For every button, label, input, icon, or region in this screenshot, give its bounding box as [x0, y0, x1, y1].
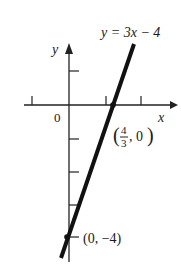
- y-axis-label: y: [50, 42, 59, 57]
- equation-label: y = 3x − 4: [99, 25, 160, 40]
- fraction-numerator: 4: [121, 124, 127, 136]
- x-axis: [24, 96, 178, 109]
- open-paren: (: [113, 124, 120, 147]
- x-intercept-label: ( 4 3 , 0 ): [113, 124, 154, 149]
- label-rest: , 0: [129, 129, 143, 144]
- x-intercept-point: [110, 102, 116, 108]
- y-intercept-label: (0, −4): [83, 231, 122, 247]
- close-paren: ): [147, 124, 154, 147]
- x-axis-label: x: [157, 110, 165, 125]
- y-intercept-point: [64, 234, 70, 240]
- chart-canvas: y = 3x − 4 y x 0 ( 4 3 , 0 ) (0, −4): [0, 0, 181, 266]
- line-series: [61, 44, 134, 258]
- x-axis-arrow-icon: [170, 101, 178, 109]
- fraction-denominator: 3: [121, 137, 127, 149]
- origin-label: 0: [54, 110, 61, 125]
- y-axis-arrow-icon: [65, 43, 73, 54]
